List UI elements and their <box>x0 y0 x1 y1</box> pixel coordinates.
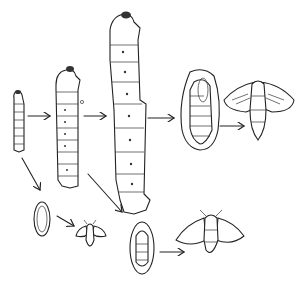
larva-small <box>14 90 24 152</box>
larva-large <box>110 12 150 215</box>
silkworm-lifecycle-illustration <box>0 0 306 292</box>
arrow-5 <box>22 158 40 190</box>
moth-small <box>76 220 106 246</box>
cocoon-medium <box>130 222 154 274</box>
moth-large <box>224 81 294 140</box>
arrow-6 <box>57 216 74 226</box>
larva-medium <box>56 66 84 188</box>
cocoon-small <box>34 202 50 236</box>
moth-medium <box>176 210 244 252</box>
lifecycle-drawing <box>0 0 306 292</box>
arrow-7 <box>88 174 122 212</box>
cocoon-large <box>181 70 219 150</box>
